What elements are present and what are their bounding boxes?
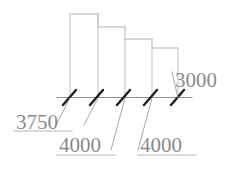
- stepped-profile-outline: [70, 14, 178, 48]
- dimension-label-3750: 3750: [16, 112, 58, 133]
- leader-3750-left: [56, 98, 70, 125]
- leader-4000a-right: [111, 98, 125, 150]
- dimension-label-3000: 3000: [175, 70, 217, 91]
- dimension-label-4000-right: 4000: [140, 135, 182, 156]
- dimension-label-4000-left: 4000: [59, 135, 101, 156]
- drawing-canvas: 3750 4000 4000 3000: [0, 0, 237, 169]
